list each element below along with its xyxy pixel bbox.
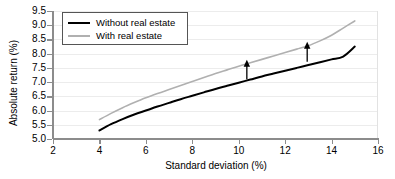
- x-axis-title: Standard deviation (%): [53, 160, 379, 171]
- gridline: [53, 96, 377, 97]
- y-tick-label: 7.5: [20, 63, 46, 73]
- x-tick-mark: [192, 139, 193, 144]
- x-tick-label: 6: [134, 146, 158, 156]
- x-tick-label: 10: [227, 146, 251, 156]
- y-tick-mark: [47, 54, 52, 55]
- y-axis-title: Absolute return (%): [7, 13, 21, 153]
- x-tick-mark: [285, 139, 286, 144]
- x-tick-mark: [146, 139, 147, 144]
- y-axis-line: [52, 11, 54, 139]
- y-tick-mark: [47, 82, 52, 83]
- y-tick-mark: [47, 125, 52, 126]
- legend-item-with-real-estate: With real estate: [63, 29, 187, 42]
- legend-item-without-real-estate: Without real estate: [63, 16, 187, 29]
- x-tick-mark: [378, 139, 379, 144]
- x-tick-label: 12: [273, 146, 297, 156]
- legend-label-without-real-estate: Without real estate: [96, 17, 175, 28]
- x-tick-mark: [99, 139, 100, 144]
- y-tick-mark: [47, 11, 52, 12]
- y-tick-label: 9.5: [20, 6, 46, 16]
- x-tick-label: 2: [41, 146, 65, 156]
- x-axis-line: [53, 138, 379, 140]
- gridline: [53, 111, 377, 112]
- gridline: [53, 68, 377, 69]
- gridline: [53, 82, 377, 83]
- x-tick-mark: [53, 139, 54, 144]
- y-tick-mark: [47, 68, 52, 69]
- y-tick-label: 5.5: [20, 120, 46, 130]
- x-tick-label: 16: [366, 146, 390, 156]
- x-tick-label: 4: [87, 146, 111, 156]
- y-tick-label: 9.0: [20, 20, 46, 30]
- y-tick-mark: [47, 39, 52, 40]
- y-tick-label: 5.0: [20, 134, 46, 144]
- legend-label-with-real-estate: With real estate: [96, 30, 162, 41]
- legend-swatch-without-real-estate: [68, 22, 90, 24]
- x-tick-label: 14: [320, 146, 344, 156]
- y-tick-label: 7.0: [20, 77, 46, 87]
- gridline: [53, 54, 377, 55]
- y-tick-mark: [47, 111, 52, 112]
- y-tick-mark: [47, 96, 52, 97]
- x-tick-mark: [332, 139, 333, 144]
- y-tick-label: 8.0: [20, 49, 46, 59]
- gridline: [53, 125, 377, 126]
- y-tick-mark: [47, 25, 52, 26]
- legend-swatch-with-real-estate: [68, 35, 90, 37]
- x-tick-label: 8: [180, 146, 204, 156]
- y-tick-label: 8.5: [20, 34, 46, 44]
- y-tick-label: 6.5: [20, 91, 46, 101]
- chart-figure: Absolute return (%) Standard deviation (…: [0, 0, 395, 179]
- y-tick-label: 6.0: [20, 106, 46, 116]
- x-tick-mark: [239, 139, 240, 144]
- y-tick-mark: [47, 139, 52, 140]
- legend: Without real estate With real estate: [62, 12, 188, 45]
